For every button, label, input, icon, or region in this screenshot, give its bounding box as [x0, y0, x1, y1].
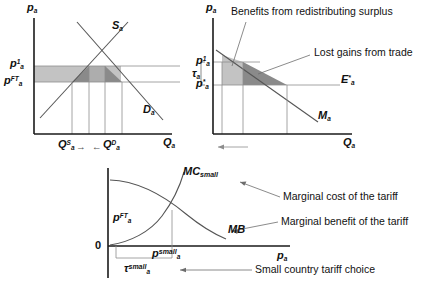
right-price-world-label: p*a — [196, 78, 209, 90]
bottom-panel-x-axis-label: pa — [277, 250, 287, 262]
left-panel-y-axis-label: pa — [27, 2, 37, 14]
tariff-welfare-figure: pa Qa Sa Da p1a pFTa QSa → ← QDa pa Qa B… — [0, 0, 434, 289]
marginal-benefit-curve-label: MB — [228, 224, 245, 235]
marginal-cost-curve-MC — [110, 172, 184, 245]
right-panel-x-axis-label: Qa — [343, 137, 355, 149]
demand-curve-label: Da — [143, 104, 155, 116]
right-panel-y-axis-label: pa — [206, 2, 216, 14]
bottom-price-ft-label: pFTa — [113, 212, 131, 224]
bottom-price-small-label: psmalla — [152, 248, 180, 260]
import-demand-label: Ma — [318, 110, 331, 122]
bottom-panel-origin-label: 0 — [95, 240, 101, 251]
bottom-panel-graphics — [108, 168, 290, 278]
quantity-demand-arrow: ← — [92, 142, 102, 152]
annotation-marginal-benefit-of-tariff: Marginal benefit of the tariff — [281, 216, 408, 227]
import-demand-curve-Ma — [216, 50, 318, 122]
annotation-lost-gains-from-trade: Lost gains from trade — [314, 47, 413, 58]
export-supply-label: E*a — [341, 74, 355, 86]
left-price-tariff-label: p1a — [10, 58, 24, 70]
region-tariff-revenue — [89, 66, 105, 82]
tariff-small-label: τsmalla — [124, 263, 150, 275]
supply-curve-label: Sa — [112, 20, 123, 32]
right-price-tariff-label: p1a — [196, 55, 210, 67]
leader-tariff-choice-arrowhead — [180, 268, 186, 272]
leader-marginal-cost — [240, 182, 280, 197]
right-panel-graphics — [201, 18, 352, 149]
annotation-small-country-tariff-choice: Small country tariff choice — [255, 264, 375, 275]
quantity-demand-label: QDa — [103, 139, 120, 151]
import-reduction-arrowhead — [218, 145, 224, 150]
marginal-benefit-curve-MB — [110, 180, 226, 239]
left-price-ft-label: pFTa — [4, 75, 22, 87]
leader-benefits — [232, 22, 246, 66]
marginal-cost-curve-label: MCsmall — [183, 166, 218, 178]
quantity-supply-label: QSa — [58, 139, 75, 151]
left-panel-x-axis-label: Qa — [163, 137, 175, 149]
annotation-marginal-cost-of-tariff: Marginal cost of the tariff — [283, 191, 398, 202]
left-panel-graphics — [34, 18, 180, 134]
leader-lost-gains — [258, 55, 310, 74]
quantity-supply-arrow: → — [76, 142, 86, 152]
annotation-benefits-redistributing-surplus: Benefits from redistributing surplus — [231, 6, 393, 17]
